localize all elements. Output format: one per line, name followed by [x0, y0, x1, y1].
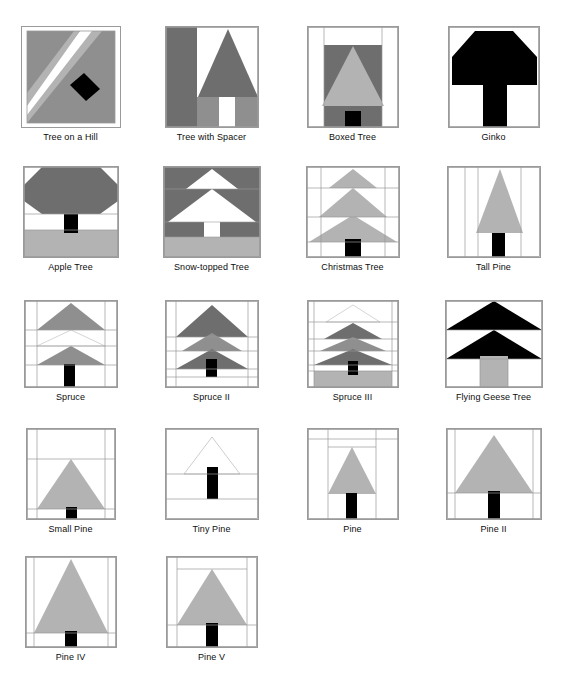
block-label: Spruce	[56, 392, 85, 403]
block-label: Boxed Tree	[329, 132, 376, 143]
block-label: Pine IV	[56, 652, 86, 663]
pine-ii-diagram	[447, 429, 541, 519]
snow-topped-tree-diagram	[164, 167, 260, 257]
tiny-pine-diagram	[166, 429, 258, 519]
spruce-ii-diagram	[166, 301, 258, 387]
block-swatch-flying-geese-tree[interactable]	[445, 300, 543, 388]
block-swatch-christmas-tree[interactable]	[306, 166, 400, 258]
pine-diagram	[308, 429, 398, 519]
block-cell-christmas-tree[interactable]: Christmas Tree	[282, 166, 423, 273]
block-label: Pine II	[480, 524, 506, 535]
block-swatch-tree-with-spacer[interactable]	[165, 26, 259, 128]
block-cell-apple-tree[interactable]: Apple Tree	[0, 166, 141, 273]
ginko-diagram	[449, 27, 539, 127]
pine-iv-diagram	[26, 557, 116, 647]
block-row-1: Tree on a Hill Tree with Spacer	[0, 26, 564, 143]
block-swatch-spruce-ii[interactable]	[165, 300, 259, 388]
block-cell-pine-iv[interactable]: Pine IV	[0, 556, 141, 663]
block-swatch-tall-pine[interactable]	[447, 166, 541, 258]
block-swatch-pine-v[interactable]	[166, 556, 258, 648]
block-swatch-snow-topped-tree[interactable]	[163, 166, 261, 258]
block-label: Tiny Pine	[192, 524, 230, 535]
small-pine-diagram	[27, 429, 115, 519]
block-label: Tree on a Hill	[43, 132, 98, 143]
block-cell-ginko[interactable]: Ginko	[423, 26, 564, 143]
block-swatch-small-pine[interactable]	[26, 428, 116, 520]
block-swatch-pine-iv[interactable]	[25, 556, 117, 648]
block-cell-pine[interactable]: Pine	[282, 428, 423, 535]
block-label: Flying Geese Tree	[456, 392, 531, 403]
block-cell-small-pine[interactable]: Small Pine	[0, 428, 141, 535]
apple-tree-diagram	[24, 167, 118, 257]
block-row-3: Spruce Spruce II	[0, 300, 564, 403]
block-label: Pine	[343, 524, 361, 535]
block-swatch-pine[interactable]	[307, 428, 399, 520]
block-swatch-spruce[interactable]	[24, 300, 118, 388]
block-swatch-tiny-pine[interactable]	[165, 428, 259, 520]
block-row-2: Apple Tree Snow-topped Tree	[0, 166, 564, 273]
block-cell-tiny-pine[interactable]: Tiny Pine	[141, 428, 282, 535]
block-label: Tree with Spacer	[177, 132, 246, 143]
boxed-tree-diagram	[308, 27, 398, 127]
block-cell-empty-2	[423, 556, 564, 663]
block-label: Apple Tree	[48, 262, 93, 273]
block-cell-spruce[interactable]: Spruce	[0, 300, 141, 403]
block-cell-boxed-tree[interactable]: Boxed Tree	[282, 26, 423, 143]
christmas-tree-diagram	[307, 167, 399, 257]
pine-v-diagram	[167, 557, 257, 647]
block-label: Spruce III	[333, 392, 373, 403]
block-cell-tree-with-spacer[interactable]: Tree with Spacer	[141, 26, 282, 143]
block-row-5: Pine IV Pine V	[0, 556, 564, 663]
block-cell-spruce-ii[interactable]: Spruce II	[141, 300, 282, 403]
block-swatch-ginko[interactable]	[448, 26, 540, 128]
tree-with-spacer-diagram	[166, 27, 258, 127]
tall-pine-diagram	[448, 167, 540, 257]
block-cell-empty-1	[282, 556, 423, 663]
block-label: Ginko	[481, 132, 505, 143]
flying-geese-tree-diagram	[446, 301, 542, 387]
block-label: Small Pine	[48, 524, 92, 535]
block-swatch-apple-tree[interactable]	[23, 166, 119, 258]
spruce-iii-diagram	[308, 301, 398, 387]
block-swatch-tree-on-a-hill[interactable]	[21, 26, 121, 128]
block-label: Pine V	[198, 652, 225, 663]
spruce-diagram	[25, 301, 117, 387]
block-swatch-boxed-tree[interactable]	[307, 26, 399, 128]
block-label: Snow-topped Tree	[174, 262, 249, 273]
block-label: Tall Pine	[476, 262, 511, 273]
block-label: Christmas Tree	[321, 262, 383, 273]
block-cell-tree-on-a-hill[interactable]: Tree on a Hill	[0, 26, 141, 143]
block-label: Spruce II	[193, 392, 230, 403]
block-cell-pine-ii[interactable]: Pine II	[423, 428, 564, 535]
block-cell-tall-pine[interactable]: Tall Pine	[423, 166, 564, 273]
block-swatch-pine-ii[interactable]	[446, 428, 542, 520]
block-swatch-spruce-iii[interactable]	[307, 300, 399, 388]
pattern-sheet: Tree on a Hill Tree with Spacer	[0, 0, 564, 677]
tree-on-a-hill-diagram	[22, 27, 120, 127]
block-cell-spruce-iii[interactable]: Spruce III	[282, 300, 423, 403]
block-row-4: Small Pine Tiny Pine	[0, 428, 564, 535]
block-cell-snow-topped-tree[interactable]: Snow-topped Tree	[141, 166, 282, 273]
block-cell-pine-v[interactable]: Pine V	[141, 556, 282, 663]
block-cell-flying-geese-tree[interactable]: Flying Geese Tree	[423, 300, 564, 403]
